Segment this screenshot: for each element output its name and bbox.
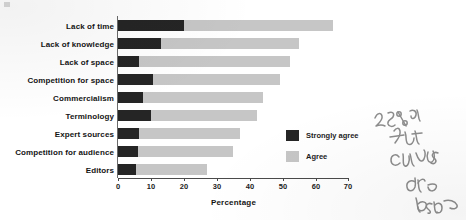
bar-segment-agree bbox=[161, 38, 300, 49]
bar-segment-strongly-agree bbox=[118, 146, 138, 157]
x-tick-mark bbox=[217, 178, 218, 181]
bar-segment-strongly-agree bbox=[118, 38, 161, 49]
bar-segment-strongly-agree bbox=[118, 92, 143, 103]
x-tick-mark bbox=[250, 178, 251, 181]
x-tick-label-0: 0 bbox=[106, 182, 130, 191]
bar-segment-strongly-agree bbox=[118, 110, 151, 121]
x-tick-label-60: 60 bbox=[304, 182, 328, 191]
y-tick-label-lack-of-time: Lack of time bbox=[66, 22, 114, 32]
x-tick-label-20: 20 bbox=[172, 182, 196, 191]
x-tick-label-10: 10 bbox=[139, 182, 163, 191]
x-tick-mark bbox=[283, 178, 284, 181]
x-tick-mark bbox=[184, 178, 185, 181]
legend-label-strongly-agree: Strongly agree bbox=[306, 131, 359, 140]
legend-label-agree: Agree bbox=[306, 152, 327, 161]
y-tick-label-competition-for-space: Competition for space bbox=[27, 76, 114, 86]
legend-item-agree: Agree bbox=[286, 149, 359, 164]
legend: Strongly agree Agree bbox=[286, 128, 359, 170]
x-tick-label-40: 40 bbox=[238, 182, 262, 191]
bar-segment-agree bbox=[153, 74, 280, 85]
bar-segment-agree bbox=[184, 20, 333, 31]
x-tick-mark bbox=[348, 178, 349, 181]
y-tick-label-lack-of-knowledge: Lack of knowledge bbox=[41, 40, 114, 50]
x-axis-line bbox=[118, 178, 349, 179]
plot-area: Lack of time Lack of knowledge Lack of s… bbox=[0, 0, 466, 220]
x-tick-label-30: 30 bbox=[205, 182, 229, 191]
x-axis-title: Percentage bbox=[118, 198, 349, 207]
bar-segment-agree bbox=[151, 110, 257, 121]
bar-segment-agree bbox=[136, 164, 207, 175]
y-tick-label-commercialism: Commercialism bbox=[53, 94, 114, 104]
x-tick-mark bbox=[151, 178, 152, 181]
y-tick-label-editors: Editors bbox=[86, 166, 114, 176]
bar-segment-agree bbox=[138, 146, 234, 157]
bar-segment-strongly-agree bbox=[118, 20, 184, 31]
x-tick-label-70: 70 bbox=[336, 182, 360, 191]
x-tick-label-50: 50 bbox=[271, 182, 295, 191]
y-tick-label-expert-sources: Expert sources bbox=[55, 130, 114, 140]
legend-item-strongly-agree: Strongly agree bbox=[286, 128, 359, 143]
light-swatch-icon bbox=[286, 151, 299, 162]
bar-segment-agree bbox=[143, 92, 263, 103]
y-tick-label-terminology: Terminology bbox=[65, 112, 114, 122]
bar-segment-agree bbox=[139, 128, 240, 139]
chart-figure: Lack of time Lack of knowledge Lack of s… bbox=[0, 0, 466, 220]
x-tick-mark bbox=[316, 178, 317, 181]
x-tick-mark bbox=[118, 178, 119, 181]
bar-segment-strongly-agree bbox=[118, 128, 139, 139]
bar-segment-agree bbox=[139, 56, 289, 67]
y-tick-label-competition-for-audience: Competition for audience bbox=[15, 148, 114, 158]
bar-segment-strongly-agree bbox=[118, 74, 153, 85]
dark-swatch-icon bbox=[286, 130, 299, 141]
bar-segment-strongly-agree bbox=[118, 56, 139, 67]
bar-segment-strongly-agree bbox=[118, 164, 136, 175]
y-tick-label-lack-of-space: Lack of space bbox=[60, 58, 114, 68]
